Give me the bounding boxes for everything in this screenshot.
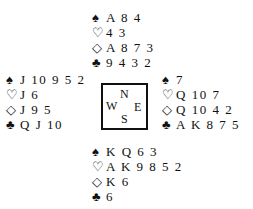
- south-clubs: ♣ 6: [92, 189, 183, 204]
- club-icon: ♣: [92, 189, 106, 204]
- west-clubs: ♣ Q J 10: [6, 117, 86, 132]
- compass-north: N: [120, 88, 129, 100]
- west-hand: ♠ J 10 9 5 2 ♡ J 6 ◇ J 9 5 ♣ Q J 10: [6, 72, 86, 132]
- club-icon: ♣: [162, 117, 176, 132]
- south-hand: ♠ K Q 6 3 ♡ A K 9 8 5 2 ◇ K 6 ♣ 6: [92, 144, 183, 204]
- heart-icon: ♡: [92, 159, 106, 174]
- spade-icon: ♠: [92, 10, 106, 25]
- south-spades: ♠ K Q 6 3: [92, 144, 183, 159]
- south-spades-cards: K Q 6 3: [106, 144, 158, 159]
- compass-south: S: [121, 113, 128, 125]
- south-diamonds: ◇ K 6: [92, 174, 183, 189]
- spade-icon: ♠: [162, 72, 176, 87]
- south-clubs-cards: 6: [106, 189, 114, 204]
- diamond-icon: ◇: [92, 174, 106, 189]
- west-hearts: ♡ J 6: [6, 87, 86, 102]
- west-spades-cards: J 10 9 5 2: [20, 72, 86, 87]
- south-diamonds-cards: K 6: [106, 174, 130, 189]
- compass-west: W: [106, 100, 117, 112]
- east-spades: ♠ 7: [162, 72, 240, 87]
- west-hearts-cards: J 6: [20, 87, 39, 102]
- east-diamonds-cards: Q 10 4 2: [176, 102, 233, 117]
- north-diamonds-cards: A 8 7 3: [106, 40, 154, 55]
- heart-icon: ♡: [92, 25, 106, 40]
- east-clubs-cards: A K 8 7 5: [176, 117, 240, 132]
- west-diamonds-cards: J 9 5: [20, 102, 52, 117]
- club-icon: ♣: [6, 117, 20, 132]
- heart-icon: ♡: [6, 87, 20, 102]
- diamond-icon: ◇: [6, 102, 20, 117]
- compass-east: E: [134, 101, 141, 113]
- east-clubs: ♣ A K 8 7 5: [162, 117, 240, 132]
- east-hearts: ♡ Q 10 7: [162, 87, 240, 102]
- diamond-icon: ◇: [162, 102, 176, 117]
- north-clubs: ♣ 9 4 3 2: [92, 55, 154, 70]
- club-icon: ♣: [92, 55, 106, 70]
- east-hearts-cards: Q 10 7: [176, 87, 220, 102]
- north-hand: ♠ A 8 4 ♡ 4 3 ◇ A 8 7 3 ♣ 9 4 3 2: [92, 10, 154, 70]
- spade-icon: ♠: [92, 144, 106, 159]
- east-hand: ♠ 7 ♡ Q 10 7 ◇ Q 10 4 2 ♣ A K 8 7 5: [162, 72, 240, 132]
- spade-icon: ♠: [6, 72, 20, 87]
- north-spades: ♠ A 8 4: [92, 10, 154, 25]
- north-hearts: ♡ 4 3: [92, 25, 154, 40]
- heart-icon: ♡: [162, 87, 176, 102]
- east-spades-cards: 7: [176, 72, 184, 87]
- south-hearts: ♡ A K 9 8 5 2: [92, 159, 183, 174]
- north-diamonds: ◇ A 8 7 3: [92, 40, 154, 55]
- north-hearts-cards: 4 3: [106, 25, 127, 40]
- west-diamonds: ◇ J 9 5: [6, 102, 86, 117]
- diamond-icon: ◇: [92, 40, 106, 55]
- west-spades: ♠ J 10 9 5 2: [6, 72, 86, 87]
- south-hearts-cards: A K 9 8 5 2: [106, 159, 183, 174]
- compass-box: N W E S: [101, 83, 148, 130]
- north-spades-cards: A 8 4: [106, 10, 142, 25]
- east-diamonds: ◇ Q 10 4 2: [162, 102, 240, 117]
- west-clubs-cards: Q J 10: [20, 117, 63, 132]
- north-clubs-cards: 9 4 3 2: [106, 55, 152, 70]
